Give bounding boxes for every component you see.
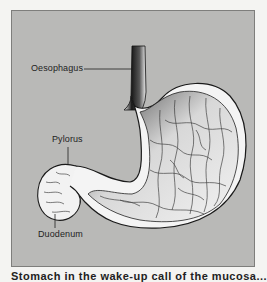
oesophagus-structure bbox=[124, 46, 146, 110]
label-pylorus: Pylorus bbox=[52, 134, 83, 144]
label-oesophagus: Oesophagus bbox=[31, 63, 83, 73]
figure-caption: Stomach in the wake-up call of the mucos… bbox=[11, 271, 267, 282]
label-duodenum: Duodenum bbox=[38, 229, 83, 239]
